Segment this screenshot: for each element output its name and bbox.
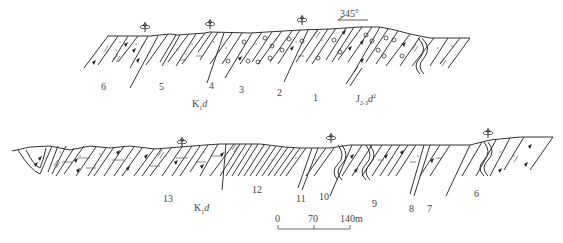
formation-name: d: [202, 98, 207, 109]
bed-number-label: 12: [252, 185, 262, 195]
bed-number-label: 8: [409, 204, 414, 214]
bed-number-label: 5: [159, 82, 164, 92]
bed-number-label: 7: [427, 204, 432, 214]
bed-number-label: 1: [313, 93, 318, 103]
formation-name: d: [204, 202, 209, 213]
formation-label-k1d: K1d: [192, 99, 207, 111]
bed-number-label: 11: [296, 194, 306, 204]
upper-fossil-markers: [140, 15, 307, 32]
upper-topography-line: [108, 27, 470, 38]
bed-number-label: 10: [319, 192, 329, 202]
lower-profile: [12, 128, 553, 229]
fossil-marker-icon: [483, 128, 493, 138]
bed-number-label: 9: [372, 199, 377, 209]
scale-tick-label: 70: [308, 214, 318, 224]
fossil-marker-icon: [140, 22, 150, 32]
bed-number-label: 3: [239, 85, 244, 95]
bed-number-label: 4: [209, 81, 214, 91]
upper-profile: [84, 15, 470, 88]
fossil-marker-icon: [205, 19, 215, 29]
formation-sup: 2: [373, 93, 376, 99]
scale-tick-label: 140m: [340, 214, 363, 224]
bed-number-label: 6: [474, 189, 479, 199]
cross-section-diagram: [0, 0, 563, 243]
scale-bar: [278, 225, 350, 229]
bed-number-label: 13: [163, 194, 173, 204]
lower-topography-line: [12, 137, 553, 151]
lower-valley-fold: [18, 146, 52, 174]
formation-label-j23d2: J2-3d2: [356, 93, 376, 106]
formation-label-k1d: K1d: [194, 203, 209, 215]
formation-sub: 2-3: [360, 100, 368, 106]
orientation-label: 345°: [340, 9, 359, 19]
fossil-marker-icon: [297, 15, 307, 25]
scale-tick-label: 0: [275, 214, 280, 224]
bed-number-label: 2: [277, 88, 282, 98]
fossil-marker-icon: [326, 133, 336, 143]
fossil-marker-icon: [177, 137, 187, 147]
bed-number-label: 6: [101, 82, 106, 92]
